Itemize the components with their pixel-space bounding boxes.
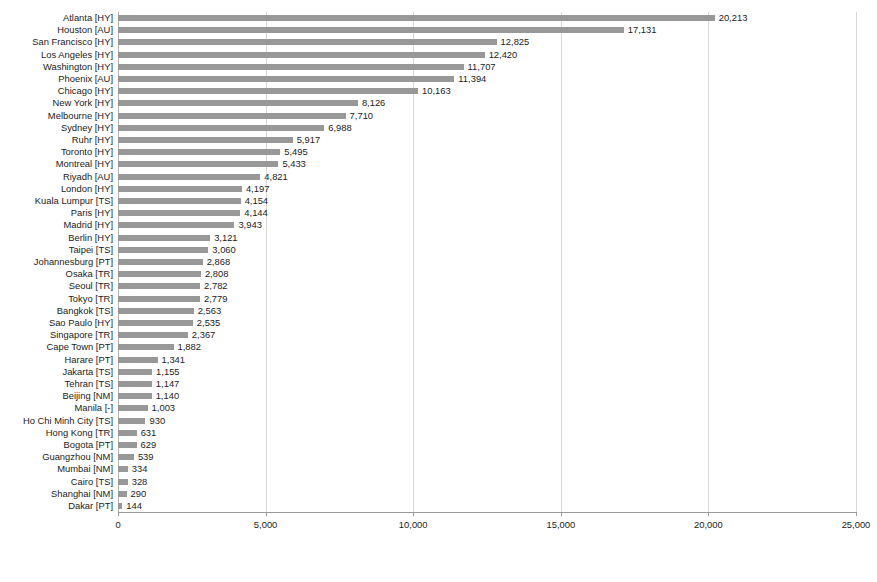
bar (118, 369, 152, 375)
bar-row: Los Angeles [HY]12,420 (118, 49, 856, 61)
bar-row: Ho Chi Minh City [TS]930 (118, 414, 856, 426)
bar-value-label: 3,943 (238, 220, 261, 230)
category-label: Sydney [HY] (61, 123, 113, 133)
bar-row: Paris [HY]4,144 (118, 207, 856, 219)
bar (118, 76, 454, 82)
bar-value-label: 629 (141, 440, 157, 450)
bar-value-label: 4,154 (245, 196, 268, 206)
category-label: Manila [-] (74, 403, 113, 413)
category-label: Washington [HY] (43, 62, 113, 72)
category-label: Bangkok [TS] (57, 306, 113, 316)
bar-value-label: 12,420 (489, 50, 518, 60)
bar-value-label: 1,140 (156, 391, 179, 401)
bar (118, 222, 234, 228)
bar (118, 271, 201, 277)
bar-value-label: 1,147 (156, 379, 179, 389)
x-tick-mark (118, 512, 119, 516)
bar (118, 405, 148, 411)
bar (118, 100, 358, 106)
bar-value-label: 5,495 (284, 147, 307, 157)
category-label: Shanghai [NM] (51, 489, 113, 499)
category-label: Chicago [HY] (58, 86, 113, 96)
bar (118, 64, 464, 70)
bar-row: Osaka [TR]2,808 (118, 268, 856, 280)
bar-row: Manila [-]1,003 (118, 402, 856, 414)
bar-value-label: 2,535 (197, 318, 220, 328)
bar-value-label: 4,144 (244, 208, 267, 218)
bar (118, 125, 324, 131)
bar-row: Taipei [TS]3,060 (118, 244, 856, 256)
bar-value-label: 2,367 (192, 330, 215, 340)
category-label: Jakarta [TS] (62, 367, 113, 377)
bar (118, 137, 293, 143)
bar-value-label: 20,213 (719, 13, 748, 23)
bar-row: Riyadh [AU]4,821 (118, 171, 856, 183)
category-label: Osaka [TR] (66, 269, 113, 279)
category-label: Tokyo [TR] (68, 294, 113, 304)
bar-row: Bangkok [TS]2,563 (118, 305, 856, 317)
category-label: Mumbai [NM] (57, 464, 113, 474)
x-tick-label: 15,000 (546, 519, 575, 530)
bar-row: Tokyo [TR]2,779 (118, 292, 856, 304)
bar-row: Madrid [HY]3,943 (118, 219, 856, 231)
bar-value-label: 1,341 (162, 355, 185, 365)
category-label: Montreal [HY] (56, 159, 113, 169)
bar-row: Cape Town [PT]1,882 (118, 341, 856, 353)
bar (118, 88, 418, 94)
bar-row: Houston [AU]17,131 (118, 24, 856, 36)
bar-row: Chicago [HY]10,163 (118, 85, 856, 97)
bar (118, 344, 174, 350)
bar-value-label: 328 (132, 477, 148, 487)
gridline (856, 12, 857, 512)
bar-value-label: 2,808 (205, 269, 228, 279)
category-label: Guangzhou [NM] (42, 452, 113, 462)
bar (118, 15, 715, 21)
bar-value-label: 144 (126, 501, 142, 511)
x-tick-label: 10,000 (399, 519, 428, 530)
category-label: Tehran [TS] (65, 379, 113, 389)
bar (118, 161, 278, 167)
x-axis-line (118, 512, 857, 513)
bar-row: New York [HY]8,126 (118, 97, 856, 109)
category-label: Cairo [TS] (71, 477, 113, 487)
category-label: Toronto [HY] (61, 147, 113, 157)
bar (118, 235, 210, 241)
category-label: Riyadh [AU] (63, 172, 113, 182)
bar-value-label: 2,779 (204, 294, 227, 304)
bar (118, 430, 137, 436)
bar-value-label: 1,882 (178, 342, 201, 352)
category-label: New York [HY] (53, 98, 113, 108)
x-tick-label: 5,000 (254, 519, 277, 530)
bar (118, 418, 145, 424)
bar-value-label: 11,394 (458, 74, 486, 84)
category-label: Cape Town [PT] (46, 342, 113, 352)
x-tick-mark (856, 512, 857, 516)
bar-row: Tehran [TS]1,147 (118, 378, 856, 390)
bar-value-label: 5,433 (282, 159, 305, 169)
x-tick-mark (708, 512, 709, 516)
bar-row: Beijing [NM]1,140 (118, 390, 856, 402)
x-tick-mark (561, 512, 562, 516)
bar-row: Sydney [HY]6,988 (118, 122, 856, 134)
bar-row: Kuala Lumpur [TS]4,154 (118, 195, 856, 207)
bar (118, 320, 193, 326)
category-label: Ruhr [HY] (72, 135, 113, 145)
bar-row: London [HY]4,197 (118, 183, 856, 195)
bar-value-label: 2,563 (198, 306, 221, 316)
bar (118, 503, 122, 509)
plot-area: Atlanta [HY]20,213Houston [AU]17,131San … (118, 12, 856, 512)
bar (118, 296, 200, 302)
bar-value-label: 3,121 (214, 233, 237, 243)
bar-value-label: 8,126 (362, 98, 385, 108)
bar (118, 283, 200, 289)
bar-row: Atlanta [HY]20,213 (118, 12, 856, 24)
bar-value-label: 2,782 (204, 281, 227, 291)
category-label: Bogota [PT] (63, 440, 113, 450)
bar-row: Toronto [HY]5,495 (118, 146, 856, 158)
bar (118, 332, 188, 338)
bar (118, 39, 497, 45)
bar-row: Cairo [TS]328 (118, 475, 856, 487)
bar-row: Berlin [HY]3,121 (118, 232, 856, 244)
bar-value-label: 2,868 (207, 257, 230, 267)
bar-row: Melbourne [HY]7,710 (118, 110, 856, 122)
